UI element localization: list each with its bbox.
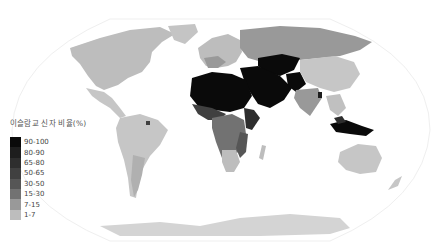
legend-label: 50-65 — [24, 168, 44, 178]
legend: 이슬람교 신자 비율(%) 90-100 80-90 65-80 50-65 3… — [10, 117, 86, 220]
legend-item: 1-7 — [10, 210, 86, 220]
legend-swatch — [10, 158, 21, 168]
region-east-africa — [244, 108, 260, 130]
legend-swatch — [10, 189, 21, 199]
region-russia — [240, 26, 372, 62]
legend-swatch — [10, 179, 21, 189]
region-suriname — [146, 121, 150, 125]
legend-title: 이슬람교 신자 비율(%) — [10, 117, 86, 128]
legend-label: 65-80 — [24, 158, 44, 168]
region-antarctica — [100, 214, 350, 236]
legend-item: 7-15 — [10, 199, 86, 209]
legend-label: 7-15 — [24, 200, 40, 210]
region-australia — [338, 144, 382, 174]
legend-label: 90-100 — [24, 137, 49, 147]
legend-swatch — [10, 210, 21, 220]
region-north-america — [70, 27, 175, 90]
legend-item: 50-65 — [10, 168, 86, 178]
legend-swatch — [10, 168, 21, 178]
legend-item: 90-100 — [10, 137, 86, 147]
legend-swatch — [10, 147, 21, 157]
legend-item: 80-90 — [10, 147, 86, 157]
legend-swatch — [10, 137, 21, 147]
legend-swatch — [10, 199, 21, 209]
legend-label: 80-90 — [24, 148, 44, 158]
region-indonesia — [330, 120, 374, 136]
region-new-zealand — [388, 176, 402, 190]
legend-item: 65-80 — [10, 158, 86, 168]
region-madagascar — [259, 145, 266, 160]
region-china — [300, 56, 360, 92]
region-mexico-central-america — [86, 88, 126, 118]
legend-item: 30-50 — [10, 179, 86, 189]
legend-item: 15-30 — [10, 189, 86, 199]
region-southern-africa — [222, 150, 240, 172]
region-india — [294, 88, 322, 116]
region-greenland — [168, 24, 198, 44]
region-southeast-asia — [326, 94, 346, 116]
region-argentina — [131, 155, 145, 197]
legend-label: 30-50 — [24, 179, 44, 189]
region-bangladesh — [318, 92, 322, 98]
legend-label: 1-7 — [24, 210, 35, 220]
region-south-america — [116, 114, 168, 198]
legend-label: 15-30 — [24, 189, 44, 199]
